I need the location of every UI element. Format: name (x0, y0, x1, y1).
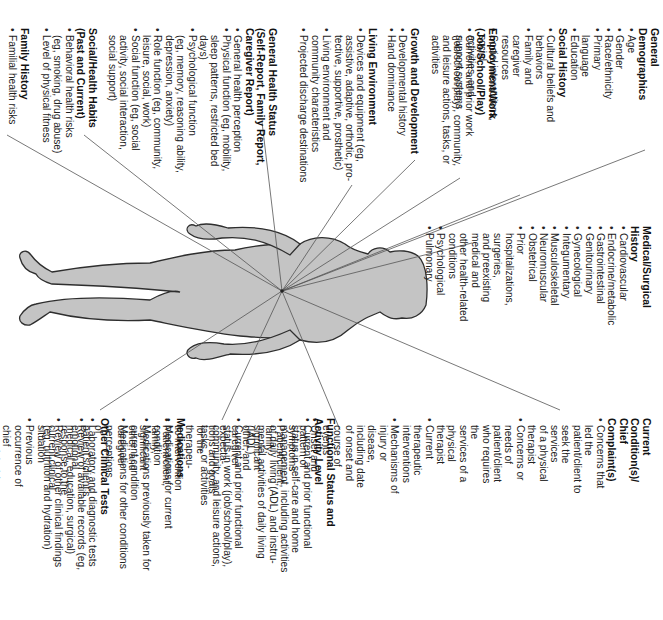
section-title: Social/Health Habits (Past and Current) (75, 28, 98, 153)
patient-history-diagram: General Demographics Age Gender Race/eth… (0, 0, 663, 620)
section-title: Living Environment (366, 28, 378, 182)
section-growth-development: Growth and Development Developmental his… (386, 28, 420, 154)
section-title: Employment/Work (Job/School/Play) (475, 28, 498, 166)
section-medications: Medications Medications for current cond… (117, 418, 186, 571)
section-employment-work: Employment/Work (Job/School/Play) Curren… (429, 28, 498, 166)
list-item: Review of available records (eg, medical… (64, 418, 87, 570)
list-item: Concerns that led the patient/client to … (526, 418, 606, 496)
list-item: Age (625, 28, 636, 100)
list-item: Previous occurrence of chief complaint(s… (0, 418, 35, 496)
list-item: Devices and equipment (eg, assistive, ad… (332, 28, 366, 182)
list-item: Current therapeutic interventions (400, 418, 434, 496)
list-item: Obstetrical (526, 226, 537, 325)
list-item: Physical function (eg, mobility, sleep p… (198, 28, 232, 173)
list-item: Primary language (580, 28, 603, 100)
list-item: Familial health risks (7, 28, 18, 124)
section-title: Growth and Development (408, 28, 420, 154)
section-family-history: Family History Familial health risks (7, 28, 30, 124)
list-item: Genitourinary (583, 226, 594, 325)
section-title: Current Condition(s)/ Chief Complaint(s) (606, 418, 652, 496)
list-item: Gynecological (572, 226, 583, 325)
list-item: Laboratory and diagnostic tests (87, 418, 98, 570)
list-item: Gastrointestinal (595, 226, 606, 325)
list-item: General health perception (232, 28, 243, 173)
section-living-environment: Living Environment Devices and equipment… (298, 28, 378, 182)
list-item: Level of physical fitness (41, 28, 52, 153)
list-item: Education (568, 28, 579, 100)
list-item: Current and prior functional status in w… (199, 418, 245, 572)
list-item: Race/ethnicity (603, 28, 614, 100)
list-item: Endocrine/metabolic (606, 226, 617, 325)
section-other-clinical-tests: Other Clinical Tests Laboratory and diag… (41, 418, 110, 570)
list-item: Social function (eg, social activity, so… (106, 28, 140, 173)
list-item: Gender (614, 28, 625, 100)
section-title: Other Clinical Tests (98, 418, 110, 570)
section-functional-status: Functional Status and Activity Level Cur… (199, 418, 336, 572)
list-item: Psychological (435, 226, 446, 325)
section-social-health-habits: Social/Health Habits (Past and Current) … (41, 28, 98, 153)
list-item: Current and prior work (job/school/play)… (429, 28, 475, 166)
list-item: Cultural beliefs and behaviors (534, 28, 557, 123)
list-item: Prior hospitalizations, surgeries, and p… (446, 226, 526, 325)
list-item: Developmental history (397, 28, 408, 154)
section-title: Medications (174, 418, 186, 571)
list-item: Concerns or needs of patient/client who … (435, 418, 526, 496)
list-item: Musculoskeletal (549, 226, 560, 325)
list-item: Hand dominance (386, 28, 397, 154)
section-title: Social History (556, 28, 568, 123)
list-item: Integumentary (560, 226, 571, 325)
section-title: Functional Status and Activity Level (313, 418, 336, 572)
list-item: Medications for other conditions (117, 418, 128, 571)
list-item: Projected discharge destinations (298, 28, 309, 182)
list-item: Family and caregiver resources (499, 28, 533, 123)
list-item: Pulmonary (424, 226, 435, 325)
list-item: Psychological function (eg, memory, reas… (163, 28, 197, 173)
list-item: Current and prior functional status in s… (244, 418, 312, 572)
section-title: General Health Status (Self-Report, Fami… (243, 28, 278, 173)
list-item: Cardiovascular (617, 226, 628, 325)
section-medical-surgical-history: Medical/Surgical History Cardiovascular … (424, 226, 653, 325)
list-item: Behavioral health risks (eg, smoking, dr… (52, 28, 75, 153)
list-item: Living environment and community charact… (309, 28, 332, 182)
section-general-demographics: General Demographics Age Gender Race/eth… (568, 28, 660, 100)
list-item: Medications for current condition (152, 418, 175, 571)
list-item: Role function (eg, community, leisure, s… (141, 28, 164, 173)
ray-hub (280, 289, 284, 293)
list-item: Medications previously taken for current… (129, 418, 152, 571)
section-title: General Demographics (637, 28, 660, 100)
section-title: Medical/Surgical History (629, 226, 652, 325)
section-general-health-status: General Health Status (Self-Report, Fami… (106, 28, 278, 173)
section-title: Family History (18, 28, 30, 124)
list-item: Neuromuscular (538, 226, 549, 325)
list-item: Review of other clinical findings (eg, n… (41, 418, 64, 570)
